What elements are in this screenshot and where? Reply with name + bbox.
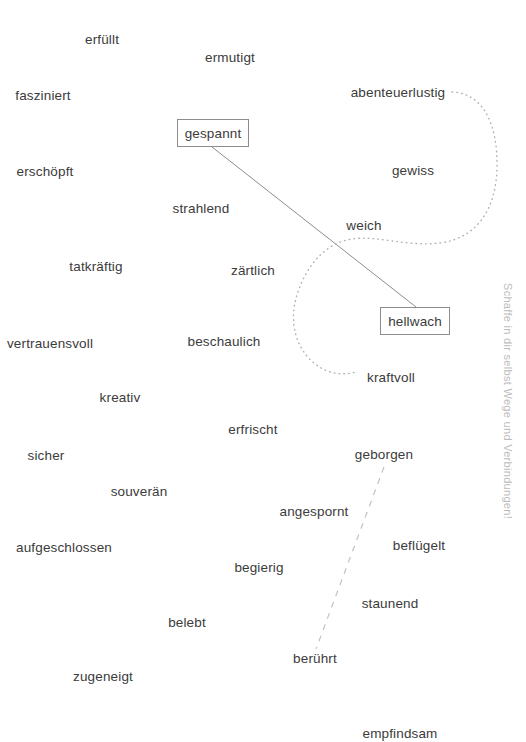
word-vertrauensvoll[interactable]: vertrauensvoll — [7, 337, 93, 351]
word-angespornt[interactable]: angespornt — [279, 505, 348, 519]
word-cloud-canvas: erfülltermutigtfasziniertabenteuerlustig… — [0, 0, 526, 742]
word-gewiss[interactable]: gewiss — [392, 164, 434, 178]
connection-solid-gespannt-hellwach — [212, 147, 416, 307]
word-strahlend[interactable]: strahlend — [173, 202, 230, 216]
word-belebt[interactable]: belebt — [168, 616, 206, 630]
word-ermutigt[interactable]: ermutigt — [205, 51, 255, 65]
word-label: gespannt — [185, 126, 242, 141]
word-erfrischt[interactable]: erfrischt — [228, 423, 277, 437]
word-staunend[interactable]: staunend — [362, 597, 419, 611]
word-zaertlich[interactable]: zärtlich — [231, 264, 275, 278]
word-empfindsam[interactable]: empfindsam — [362, 727, 437, 741]
word-geborgen[interactable]: geborgen — [355, 448, 413, 462]
connection-dashed-geborgen-beruehrt — [316, 467, 384, 649]
word-beschaulich[interactable]: beschaulich — [188, 335, 261, 349]
highlighted-word-hellwach[interactable]: hellwach — [380, 307, 450, 335]
word-kraftvoll[interactable]: kraftvoll — [367, 371, 415, 385]
word-aufgeschlossen[interactable]: aufgeschlossen — [16, 541, 112, 555]
word-label: hellwach — [388, 314, 442, 329]
word-abenteuerlustig[interactable]: abenteuerlustig — [351, 86, 446, 100]
word-befluegelt[interactable]: beflügelt — [393, 539, 445, 553]
side-note-text: Schaffe in dir selbst Wege und Verbindun… — [502, 283, 514, 519]
word-tatkraeftig[interactable]: tatkräftig — [69, 260, 122, 274]
connection-lines-layer — [0, 0, 526, 742]
word-zugeneigt[interactable]: zugeneigt — [73, 670, 133, 684]
word-erfuellt[interactable]: erfüllt — [85, 33, 119, 47]
word-begierig[interactable]: begierig — [234, 561, 283, 575]
word-erschoepft[interactable]: erschöpft — [17, 165, 74, 179]
word-kreativ[interactable]: kreativ — [100, 391, 141, 405]
word-souveraen[interactable]: souverän — [111, 485, 168, 499]
highlighted-word-gespannt[interactable]: gespannt — [177, 119, 249, 147]
word-beruehrt[interactable]: berührt — [293, 652, 337, 666]
word-fasziniert[interactable]: fasziniert — [15, 89, 71, 103]
word-sicher[interactable]: sicher — [28, 449, 65, 463]
word-weich[interactable]: weich — [346, 219, 381, 233]
